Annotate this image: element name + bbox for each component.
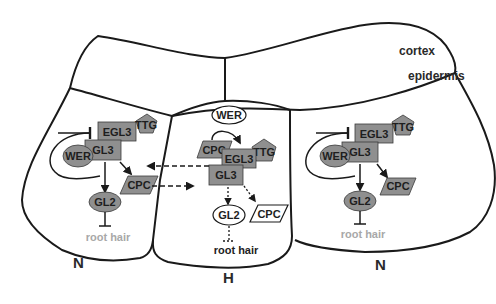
left-egl3-label: EGL3 [103,126,132,138]
right-root-hair-label: root hair [341,228,386,240]
center-gl2-label: GL2 [218,209,239,221]
center-wer-label: WER [216,109,242,121]
right-gl3-to-cpc-arrow [377,164,387,177]
right-wer-label: WER [322,150,348,162]
right-gl3-label: GL3 [349,146,370,158]
left-ttg-label: TTG [135,119,157,131]
right-cell-type-label: N [375,256,386,273]
epidermis-label: epidermis [408,69,465,83]
left-gl3-to-cpc-arrow [120,162,131,174]
left-wer-label: WER [65,150,91,162]
right-egl3-label: EGL3 [360,128,389,140]
cortex-cell [70,23,455,116]
center-cell-type-label: H [223,269,234,286]
cortex-label: cortex [399,44,435,58]
right-cell-network: EGL3 TTG GL3 WER CPC GL2 root hair [306,115,416,240]
left-cpc-label: CPC [127,179,150,191]
right-gl2-label: GL2 [349,195,370,207]
center-egl3-label: EGL3 [225,153,254,165]
root-epidermis-patterning-diagram: cortex epidermis N H N EGL3 TTG GL3 WER … [0,0,496,304]
left-gl2-label: GL2 [94,196,115,208]
right-cpc-label: CPC [386,180,409,192]
center-gl3-to-cpc-arrow [244,186,255,201]
left-root-hair-label: root hair [86,231,131,243]
center-gl3-label: GL3 [215,169,236,181]
center-root-hair-label: root hair [214,244,259,256]
left-cell-type-label: N [73,254,84,271]
left-cell-network: EGL3 TTG GL3 WER CPC GL2 root hair [50,114,158,243]
center-cpc-out-label: CPC [257,208,280,220]
right-ttg-label: TTG [392,121,414,133]
left-gl3-label: GL3 [92,144,113,156]
